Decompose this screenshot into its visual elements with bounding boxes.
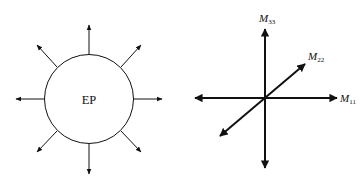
label-m11: M11 <box>339 92 356 106</box>
ep-label: EP <box>82 93 97 107</box>
label-m22: M22 <box>307 50 325 64</box>
diagram-canvas: EP M33 M22 M11 <box>0 0 363 182</box>
axis-m22 <box>220 64 305 136</box>
arrow-down-right <box>121 131 141 152</box>
label-m33: M33 <box>258 12 276 26</box>
ep-diagram: EP <box>16 25 162 174</box>
arrow-up-right <box>121 45 141 67</box>
arrow-up-left <box>37 45 57 67</box>
moment-tensor-diagram: M33 M22 M11 <box>195 12 356 168</box>
arrow-down-left <box>37 131 57 152</box>
